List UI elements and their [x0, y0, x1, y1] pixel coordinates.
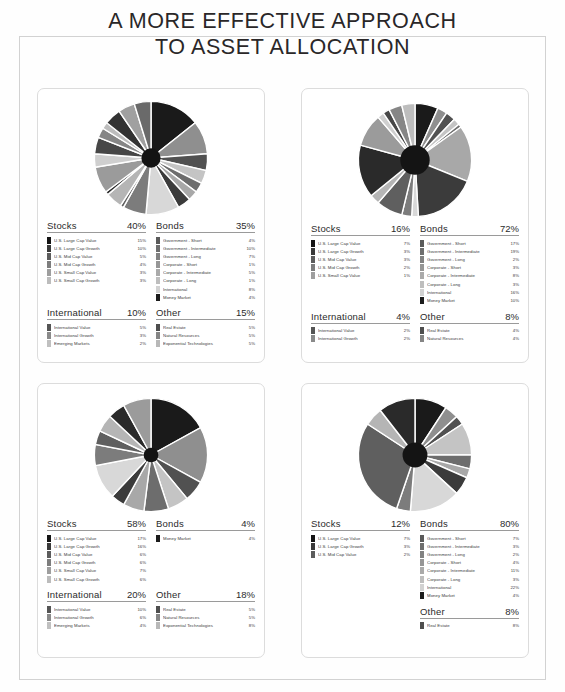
legend-swatch	[311, 248, 315, 255]
legend-row-label: Natural Resources	[163, 615, 239, 620]
legend-row-value: 5%	[130, 325, 146, 330]
legend-row-label: U.S. Large Cap Value	[54, 238, 130, 243]
legend-section-name: Bonds	[420, 223, 448, 234]
legend-row: Corporate - Short1%	[156, 261, 255, 269]
legend-rows: International Value5%International Growt…	[47, 323, 146, 348]
legend-swatch	[47, 277, 51, 284]
legend-row-value: 5%	[239, 607, 255, 612]
legend-swatch	[47, 543, 51, 550]
legend-row: U.S. Large Cap Value7%	[311, 239, 410, 247]
legend-rows: U.S. Large Cap Value15%U.S. Large Cap Gr…	[47, 236, 146, 285]
legend-row: International Growth6%	[47, 613, 146, 621]
legend-row-label: International Value	[318, 328, 394, 333]
legend-section-name: Stocks	[47, 220, 77, 231]
legend-row-label: Government - Short	[163, 238, 239, 243]
legend-row-value: 17%	[503, 241, 519, 246]
legend-row-value: 4%	[130, 262, 146, 267]
legend-row: Government - Short17%	[420, 239, 519, 247]
legend-section-international: International20%International Value10%In…	[47, 589, 146, 630]
legend-swatch	[47, 269, 51, 276]
legend-section-other: Other15%Real Estate5%Natural Resources5%…	[156, 307, 255, 348]
legend-swatch	[47, 332, 51, 339]
legend-row-label: Government - Intermediate	[427, 544, 503, 549]
legend-section-header: Bonds80%	[420, 518, 519, 531]
legend-swatch	[420, 559, 424, 566]
pie-container	[47, 390, 255, 516]
legend-row-value: 1%	[239, 262, 255, 267]
legend-swatch	[156, 261, 160, 268]
legend-row: Real Estate5%	[156, 605, 255, 613]
legend-swatch	[47, 559, 51, 566]
legend-row: U.S. Large Cap Value7%	[311, 534, 410, 542]
legend-row-label: U.S. Mid Cap Growth	[318, 265, 394, 270]
legend-row: Real Estate8%	[420, 622, 519, 630]
legend-swatch	[47, 340, 51, 347]
legend-section-stocks: Stocks40%U.S. Large Cap Value15%U.S. Lar…	[47, 220, 146, 302]
legend-row-value: 5%	[130, 254, 146, 259]
legend-section-other: Other18%Real Estate5%Natural Resources5%…	[156, 589, 255, 630]
legend-sections: Stocks12%U.S. Large Cap Value7%U.S. Larg…	[311, 516, 519, 649]
legend-row-label: Corporate - Short	[427, 265, 503, 270]
legend-row-value: 6%	[130, 615, 146, 620]
legend-row-value: 19%	[503, 249, 519, 254]
legend-section-name: Stocks	[311, 518, 341, 529]
legend-rows: Real Estate5%Natural Resources5%Exponent…	[156, 323, 255, 348]
legend-swatch	[420, 248, 424, 255]
legend-row: International8%	[156, 285, 255, 293]
legend-row-label: U.S. Mid Cap Value	[318, 257, 394, 262]
legend-row-value: 5%	[239, 615, 255, 620]
legend-row: Emerging Markets2%	[47, 340, 146, 348]
legend-row-value: 2%	[503, 552, 519, 557]
legend-row: U.S. Large Cap Growth10%	[47, 244, 146, 252]
legend-row-value: 5%	[239, 341, 255, 346]
legend-row-label: Corporate - Short	[427, 560, 503, 565]
legend-row-label: U.S. Large Cap Growth	[318, 544, 394, 549]
legend-section-bonds: Bonds35%Government - Short4%Government -…	[156, 220, 255, 302]
legend-row-label: Emerging Markets	[54, 623, 130, 628]
legend-swatch	[156, 535, 160, 542]
legend-row-value: 15%	[130, 238, 146, 243]
legend-section-percent: 80%	[500, 518, 519, 529]
pie-chart	[356, 101, 474, 219]
legend-row-value: 3%	[394, 257, 410, 262]
legend-swatch	[47, 261, 51, 268]
legend-row-value: 8%	[239, 287, 255, 292]
legend-rows: Money Market4%	[156, 534, 255, 542]
legend-row-label: Money Market	[163, 536, 239, 541]
legend-swatch	[420, 584, 424, 591]
legend-row-label: U.S. Large Cap Value	[318, 536, 394, 541]
legend-row: Government - Long7%	[156, 252, 255, 260]
legend-row-value: 10%	[503, 298, 519, 303]
legend-swatch	[156, 324, 160, 331]
legend-row: International16%	[420, 288, 519, 296]
legend-row: Exponential Technologies5%	[156, 340, 255, 348]
legend-row: Real Estate4%	[420, 327, 519, 335]
legend-row-label: Emerging Markets	[54, 341, 130, 346]
legend-row-value: 3%	[503, 282, 519, 287]
legend-rows: International Value10%International Grow…	[47, 605, 146, 630]
legend-row-value: 3%	[503, 577, 519, 582]
legend-row: U.S. Mid Cap Growth4%	[47, 261, 146, 269]
legend-row-label: Money Market	[427, 593, 503, 598]
legend-section-name: Bonds	[156, 220, 184, 231]
legend-swatch	[420, 551, 424, 558]
legend-swatch	[420, 289, 424, 296]
legend-row-label: U.S. Small Cap Growth	[54, 577, 130, 582]
legend-row-value: 2%	[394, 265, 410, 270]
legend-row-label: Government - Long	[427, 552, 503, 557]
legend-swatch	[156, 614, 160, 621]
legend-row: U.S. Large Cap Value15%	[47, 236, 146, 244]
legend-row-label: Real Estate	[163, 325, 239, 330]
legend-row-value: 1%	[394, 273, 410, 278]
legend-row-label: U.S. Large Cap Growth	[54, 246, 130, 251]
legend-swatch	[47, 253, 51, 260]
legend-row-value: 3%	[394, 544, 410, 549]
legend-row-label: Real Estate	[427, 328, 503, 333]
legend-row-value: 3%	[130, 333, 146, 338]
legend-section-international: International10%International Value5%Int…	[47, 307, 146, 348]
legend-row-value: 4%	[239, 238, 255, 243]
legend-swatch	[420, 240, 424, 247]
legend-section-header: Bonds72%	[420, 223, 519, 236]
legend-section-header: International20%	[47, 589, 146, 602]
legend-rows: Government - Short4%Government - Interme…	[156, 236, 255, 302]
